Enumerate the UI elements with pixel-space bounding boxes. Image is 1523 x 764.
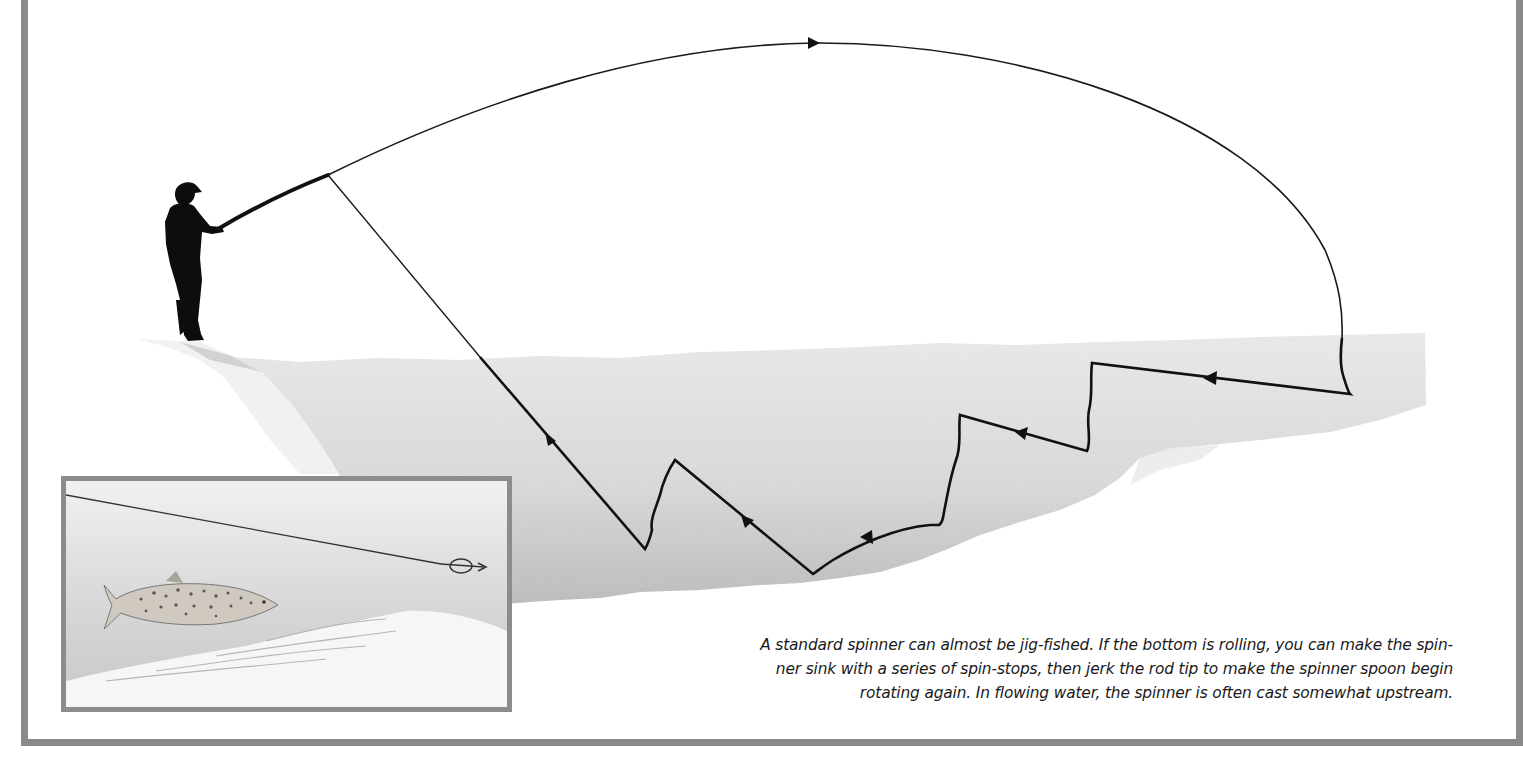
angler-silhouette (165, 182, 224, 341)
cast-arc (328, 43, 1342, 338)
inset-trout-spinner (61, 476, 512, 712)
caption-line-3: rotating again. In flowing water, the sp… (600, 681, 1453, 705)
figure-caption: A standard spinner can almost be jig-fis… (600, 633, 1453, 705)
caption-line-2: ner sink with a series of spin-stops, th… (600, 657, 1453, 681)
caption-line-1: A standard spinner can almost be jig-fis… (600, 633, 1453, 657)
fishing-line (328, 175, 480, 357)
arrow-right-icon (808, 37, 820, 49)
fishing-rod (218, 175, 328, 229)
